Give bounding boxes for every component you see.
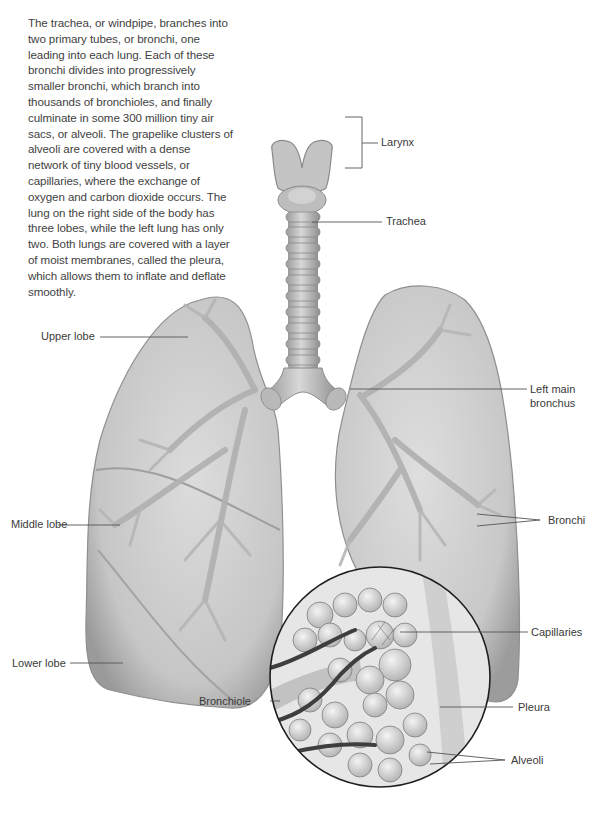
trachea-shape (257, 212, 351, 414)
label-bronchiole: Bronchiole (199, 695, 251, 708)
label-capillaries: Capillaries (531, 626, 582, 639)
label-lower-lobe: Lower lobe (12, 657, 66, 670)
label-left-main-bronchus-line1: Left main (530, 383, 575, 396)
label-left-main-bronchus-line2: bronchus (530, 397, 575, 410)
label-upper-lobe: Upper lobe (41, 330, 95, 343)
label-bronchi: Bronchi (548, 514, 585, 527)
label-trachea: Trachea (386, 215, 426, 228)
respiratory-system-illustration (0, 0, 597, 822)
label-alveoli: Alveoli (511, 754, 543, 767)
label-pleura: Pleura (518, 701, 550, 714)
larynx-shape (272, 140, 333, 214)
label-middle-lobe: Middle lobe (11, 518, 67, 531)
label-larynx: Larynx (381, 136, 414, 149)
right-lung (86, 297, 283, 708)
